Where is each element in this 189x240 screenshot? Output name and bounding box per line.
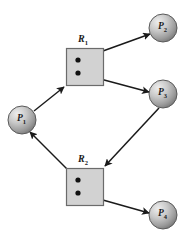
figure-canvas: R1R2P1P2P3P4 — [0, 0, 189, 240]
process-label-P3: P3 — [158, 87, 167, 99]
resource-instance-dot-R1-1 — [75, 57, 80, 62]
resource-instance-dot-R2-2 — [75, 190, 80, 195]
resource-label-R2: R2 — [78, 153, 88, 166]
resource-box-R2[interactable] — [67, 169, 104, 206]
edge-p3-requests-r2 — [105, 108, 159, 166]
graph-svg — [0, 0, 189, 240]
edge-p1-requests-r1 — [34, 87, 64, 111]
resource-box-R1[interactable] — [67, 49, 104, 86]
process-label-P2: P2 — [158, 21, 167, 33]
resource-instance-dot-R2-1 — [75, 177, 80, 182]
process-label-P4: P4 — [158, 208, 167, 220]
resource-instance-dot-R1-2 — [75, 70, 80, 75]
process-label-P1: P1 — [17, 113, 26, 125]
node-layer — [8, 14, 177, 229]
resource-label-R1: R1 — [78, 33, 88, 46]
